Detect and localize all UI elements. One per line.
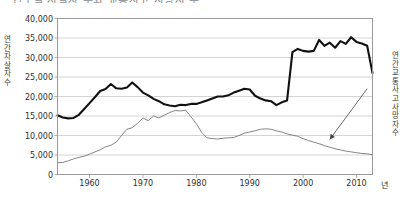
chart-container: 연도별 자살자 수와 교통사고 사망자 수 연간 자살자 수 연간 교통사고 사… bbox=[0, 0, 403, 198]
x-axis-tick-labels: 년 196019701980199020002010 bbox=[0, 0, 403, 198]
x-axis-unit-label: 년 bbox=[381, 179, 388, 190]
x-axis-tick-label: 1990 bbox=[240, 179, 260, 188]
x-axis-tick-label: 2000 bbox=[293, 179, 313, 188]
x-axis-tick-label: 2010 bbox=[346, 179, 366, 188]
x-axis-tick-label: 1970 bbox=[133, 179, 153, 188]
x-axis-tick-label: 1960 bbox=[79, 179, 99, 188]
x-axis-tick-label: 1980 bbox=[186, 179, 206, 188]
